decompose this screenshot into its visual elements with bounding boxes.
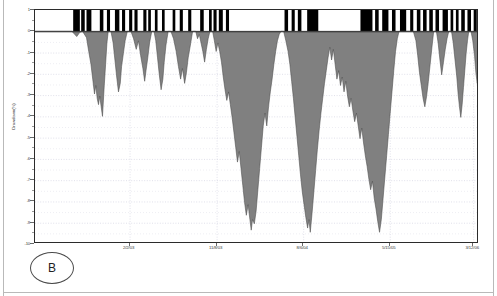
x-tick-label: 8/6/04 (296, 245, 307, 250)
x-tick-label: 11/8/03 (209, 245, 222, 250)
y-tick-label: -1 (16, 49, 30, 54)
y-tick-label: -6 (16, 155, 30, 160)
y-tick-label: -4 (16, 113, 30, 118)
page-rule-bottom (3, 292, 494, 293)
y-tick-label: -9 (16, 219, 30, 224)
indicator-bars (35, 10, 478, 31)
y-tick-label: -5 (16, 134, 30, 139)
y-tick-label: -8 (16, 198, 30, 203)
y-axis-title: Drawdown(%) (11, 87, 16, 147)
y-tick-label: 0 (16, 28, 30, 33)
drawdown-chart-svg (35, 10, 478, 243)
x-tick-label: 5/15/05 (382, 245, 396, 250)
y-tick-label: -7 (16, 177, 30, 182)
y-tick-label: -3 (16, 92, 30, 97)
x-tick-label: 3/12/06 (465, 245, 479, 250)
y-tick-label: 1 (16, 7, 30, 12)
figure-panel: 10-1-2-3-4-5-6-7-8-9-10 2/2/0311/8/038/6… (0, 0, 497, 296)
y-tick-label: -2 (16, 70, 30, 75)
x-axis-tick-labels: 2/2/0311/8/038/6/045/15/053/12/06 (0, 245, 497, 257)
drawdown-area (35, 31, 478, 232)
panel-label: B (30, 252, 74, 284)
drawdown-plot-area (34, 9, 478, 243)
x-tick-label: 2/2/03 (123, 245, 134, 250)
